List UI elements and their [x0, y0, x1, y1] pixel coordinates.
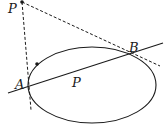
- label-interior-p: P: [71, 75, 81, 90]
- ellipse: [28, 47, 156, 123]
- ellipse-diagram: P A B P: [0, 0, 164, 140]
- label-external-p: P: [7, 1, 17, 16]
- diagram-canvas: P A B P: [0, 0, 164, 140]
- label-b: B: [128, 40, 139, 55]
- label-a: A: [14, 77, 24, 92]
- tangent-line-pa: [22, 2, 31, 110]
- chord-line-ab: [8, 43, 163, 93]
- ellipse-point-dot: [35, 62, 39, 66]
- external-point-dot: [20, 0, 24, 4]
- tangent-line-pb: [22, 2, 160, 66]
